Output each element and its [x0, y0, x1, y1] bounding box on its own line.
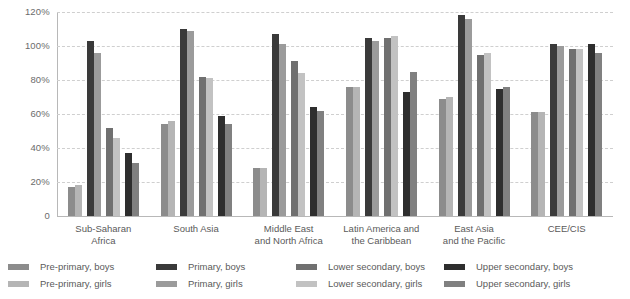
bar[interactable] — [391, 36, 398, 216]
legend-column: Primary, boysPrimary, girls — [156, 261, 296, 289]
bar[interactable] — [365, 38, 372, 217]
bar[interactable] — [538, 112, 545, 216]
bar-pair — [180, 29, 194, 216]
legend-item[interactable]: Upper secondary, girls — [444, 278, 604, 289]
bar[interactable] — [168, 121, 175, 216]
legend-swatch-icon — [296, 264, 317, 270]
bar-pair — [125, 153, 139, 216]
bar[interactable] — [161, 124, 168, 216]
bar[interactable] — [260, 168, 267, 216]
bar[interactable] — [94, 53, 101, 216]
bar[interactable] — [199, 77, 206, 216]
bar[interactable] — [496, 89, 503, 217]
legend-swatch-icon — [444, 264, 465, 270]
bar[interactable] — [218, 116, 225, 216]
bar-pair — [569, 49, 583, 216]
bar-pair — [365, 38, 379, 217]
bar-pair — [588, 44, 602, 216]
y-axis-tick-label: 80% — [0, 75, 50, 85]
bar[interactable] — [439, 99, 446, 216]
bar[interactable] — [206, 78, 213, 216]
bar-group-bars — [150, 12, 243, 216]
bar[interactable] — [531, 112, 538, 216]
x-axis-label-line: the Caribbean — [335, 235, 428, 247]
y-axis-tick-label: 120% — [0, 7, 50, 17]
x-axis-label-line: Latin America and — [335, 223, 428, 235]
legend-label: Lower secondary, boys — [328, 261, 425, 272]
bar-pair — [477, 53, 491, 216]
bar-pair — [199, 77, 213, 216]
bar[interactable] — [298, 73, 305, 216]
bar[interactable] — [353, 87, 360, 216]
grouped-bar-chart: 020%40%60%80%100%120% Sub-SaharanAfricaS… — [0, 0, 630, 299]
legend-item[interactable]: Lower secondary, boys — [296, 261, 444, 272]
bar-group — [57, 12, 150, 216]
x-axis-category-label: CEE/CIS — [520, 223, 613, 247]
legend-item[interactable]: Upper secondary, boys — [444, 261, 604, 272]
bar[interactable] — [576, 49, 583, 216]
bar-pair — [458, 15, 472, 216]
bar[interactable] — [372, 41, 379, 216]
bar[interactable] — [310, 107, 317, 216]
bar-pair — [272, 34, 286, 216]
legend-item[interactable]: Pre-primary, boys — [8, 261, 156, 272]
bar[interactable] — [317, 111, 324, 216]
bar[interactable] — [75, 185, 82, 216]
legend-item[interactable]: Primary, boys — [156, 261, 296, 272]
bar[interactable] — [113, 138, 120, 216]
x-axis-category-label: Sub-SaharanAfrica — [57, 223, 150, 247]
bar[interactable] — [87, 41, 94, 216]
bar-group-bars — [335, 12, 428, 216]
bar-group — [150, 12, 243, 216]
bar-pair — [87, 41, 101, 216]
bar[interactable] — [550, 44, 557, 216]
bar[interactable] — [132, 163, 139, 216]
bar-pair — [346, 87, 360, 216]
bar-pair — [496, 87, 510, 216]
bar[interactable] — [279, 44, 286, 216]
bar[interactable] — [106, 128, 113, 216]
x-axis-category-label: Middle Eastand North Africa — [242, 223, 335, 247]
bar[interactable] — [384, 38, 391, 217]
bar[interactable] — [68, 187, 75, 216]
bar-pair — [253, 168, 267, 216]
legend-label: Upper secondary, girls — [476, 278, 570, 289]
bar-pair — [291, 61, 305, 216]
x-axis-labels: Sub-SaharanAfricaSouth AsiaMiddle Eastan… — [57, 223, 613, 247]
bar-group — [520, 12, 613, 216]
y-axis-tick-label: 100% — [0, 41, 50, 51]
bar-pair — [403, 72, 417, 217]
bar[interactable] — [403, 92, 410, 216]
bar[interactable] — [291, 61, 298, 216]
legend-item[interactable]: Pre-primary, girls — [8, 278, 156, 289]
bar[interactable] — [180, 29, 187, 216]
legend-swatch-icon — [444, 281, 465, 287]
bar[interactable] — [410, 72, 417, 217]
bar[interactable] — [569, 49, 576, 216]
bar[interactable] — [446, 97, 453, 216]
legend-column: Lower secondary, boysLower secondary, gi… — [296, 261, 444, 289]
bar[interactable] — [272, 34, 279, 216]
plot-area — [57, 12, 613, 216]
bar[interactable] — [465, 19, 472, 216]
bar-group — [428, 12, 521, 216]
bar[interactable] — [253, 168, 260, 216]
bar-pair — [218, 116, 232, 216]
legend-item[interactable]: Primary, girls — [156, 278, 296, 289]
bar[interactable] — [503, 87, 510, 216]
bar[interactable] — [458, 15, 465, 216]
bar[interactable] — [477, 55, 484, 217]
bar-group-bars — [242, 12, 335, 216]
legend-swatch-icon — [156, 264, 177, 270]
legend-item[interactable]: Lower secondary, girls — [296, 278, 444, 289]
bar[interactable] — [225, 124, 232, 216]
bar[interactable] — [125, 153, 132, 216]
legend-label: Upper secondary, boys — [476, 261, 573, 272]
bar-pair — [161, 121, 175, 216]
bar[interactable] — [346, 87, 353, 216]
bar[interactable] — [588, 44, 595, 216]
bar[interactable] — [557, 46, 564, 216]
bar[interactable] — [484, 53, 491, 216]
bar[interactable] — [187, 31, 194, 216]
bar[interactable] — [595, 53, 602, 216]
